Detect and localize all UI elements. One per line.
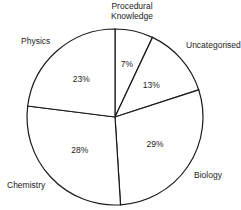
slice-category-label-chemistry: Chemistry [7, 180, 46, 190]
slice-value-label-physics: 23% [73, 74, 90, 84]
slice-value-label-uncategorised: 13% [143, 80, 160, 90]
slice-value-label-biology: 29% [147, 139, 164, 149]
slice-value-label-procedural-knowledge: 7% [121, 59, 134, 69]
pie-slice-chemistry [27, 106, 121, 205]
pie-chart: 7%13%29%28%23% ProceduralKnowledgeUncate… [0, 0, 241, 210]
slice-category-label-physics: Physics [21, 36, 50, 46]
slice-category-label-biology: Biology [194, 170, 223, 180]
slice-category-label-procedural-knowledge: ProceduralKnowledge [111, 1, 153, 21]
slice-value-label-chemistry: 28% [71, 145, 88, 155]
slice-category-label-uncategorised: Uncategorised [186, 40, 241, 50]
